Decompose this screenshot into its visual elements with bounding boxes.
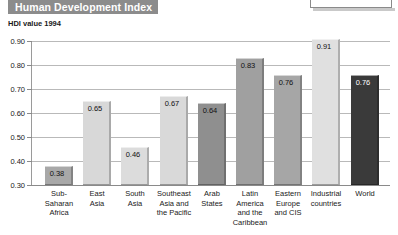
y-axis-tick xyxy=(27,161,32,162)
y-axis-tick xyxy=(27,137,32,138)
bar-value-label: 0.83 xyxy=(236,61,260,70)
y-axis-tick xyxy=(27,185,32,186)
page-title: Human Development Index xyxy=(15,1,152,13)
x-axis-category-line: Caribbean xyxy=(227,218,273,228)
chart-plot-area: 0.900.800.700.600.500.400.300.38Sub-Saha… xyxy=(0,0,398,235)
bar-value-label: 0.46 xyxy=(121,150,145,159)
y-axis-tick-label: 0.40 xyxy=(2,157,25,166)
bar: 0.91 xyxy=(312,39,340,185)
x-axis-category-label: World xyxy=(342,189,388,199)
bar: 0.76 xyxy=(274,75,302,185)
y-axis-tick xyxy=(27,41,32,42)
bar: 0.83 xyxy=(236,58,264,185)
chart-title-banner: Human Development Index xyxy=(8,0,158,14)
bar-value-label: 0.91 xyxy=(312,42,336,51)
bar-value-label: 0.38 xyxy=(45,169,69,178)
x-axis-category-line: Africa xyxy=(36,208,82,218)
y-axis-tick-label: 0.90 xyxy=(2,37,25,46)
y-axis-tick xyxy=(27,113,32,114)
bar-value-label: 0.64 xyxy=(198,106,222,115)
x-axis-category-line: World xyxy=(342,189,388,199)
bar: 0.46 xyxy=(121,147,149,185)
bar: 0.65 xyxy=(83,101,111,185)
bar-value-label: 0.65 xyxy=(83,104,107,113)
y-axis-tick-label: 0.50 xyxy=(2,133,25,142)
callout-box-shadow xyxy=(313,8,395,11)
bar-value-label: 0.76 xyxy=(274,78,298,87)
x-axis-category-line: countries xyxy=(303,199,349,209)
x-axis-category-line: and CIS xyxy=(265,208,311,218)
y-axis-tick-label: 0.60 xyxy=(2,109,25,118)
bar-value-label: 0.67 xyxy=(160,99,184,108)
bar: 0.38 xyxy=(45,166,73,185)
y-axis-tick xyxy=(27,89,32,90)
clipped-callout-box: income xyxy=(310,0,392,8)
x-axis-category-line: the Pacific xyxy=(151,208,197,218)
y-axis-tick xyxy=(27,65,32,66)
y-axis-tick-label: 0.80 xyxy=(2,61,25,70)
bar-value-label: 0.76 xyxy=(351,78,375,87)
bar: 0.64 xyxy=(198,103,226,185)
bar: 0.67 xyxy=(160,96,188,185)
x-axis-baseline xyxy=(31,185,390,186)
y-axis-tick-label: 0.30 xyxy=(2,181,25,190)
bar: 0.76 xyxy=(351,75,379,185)
y-axis-tick-label: 0.70 xyxy=(2,85,25,94)
